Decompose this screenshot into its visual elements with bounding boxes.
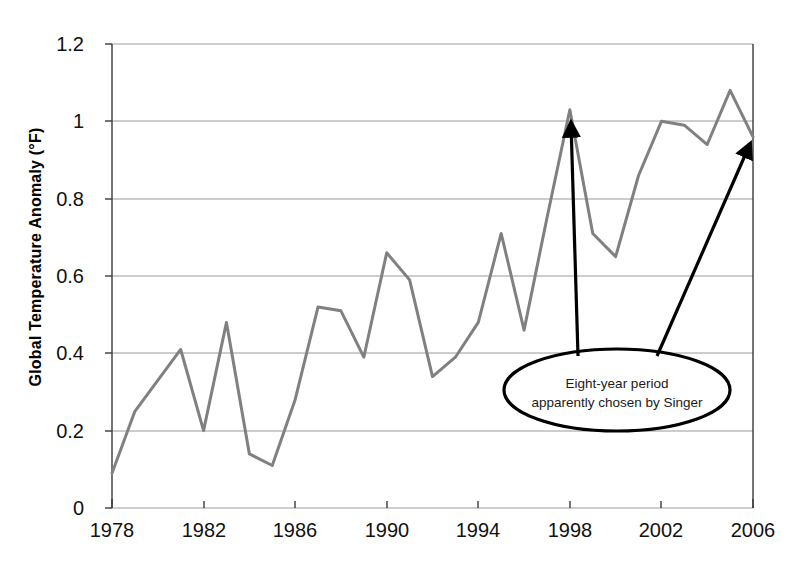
callout-text-line-2: apparently chosen by Singer xyxy=(497,394,737,412)
gridlines xyxy=(112,44,753,508)
y-tick-marks xyxy=(105,44,112,508)
plot-area xyxy=(0,0,807,577)
arrow-to-2006 xyxy=(657,144,750,356)
chart-figure: Global Temperature Anomaly (°F) 1.2 1 0.… xyxy=(0,0,807,577)
arrow-to-1998 xyxy=(571,123,578,356)
callout-text-line-1: Eight-year period xyxy=(504,375,730,393)
x-tick-marks xyxy=(112,499,753,508)
